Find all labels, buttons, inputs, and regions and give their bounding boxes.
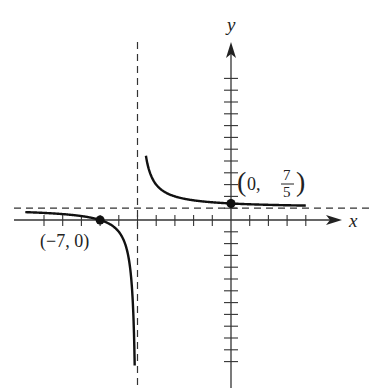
y-intercept-label-open: (	[237, 166, 246, 197]
rational-function-graph: x y (−7, 0) ( 0, 7 5 )	[0, 0, 373, 391]
x-intercept-point	[96, 216, 105, 225]
x-intercept-label: (−7, 0)	[40, 231, 89, 252]
y-intercept-label-denominator: 5	[283, 184, 291, 200]
y-intercept-label-close: )	[296, 166, 305, 197]
curve-right-branch	[146, 156, 306, 206]
y-intercept-label-zero: 0,	[247, 174, 261, 194]
x-axis-label: x	[348, 210, 358, 231]
y-intercept-label-numerator: 7	[283, 167, 291, 183]
y-intercept-point	[227, 199, 236, 208]
y-intercept-label: ( 0, 7 5 )	[237, 166, 305, 200]
y-axis-label: y	[225, 14, 236, 35]
